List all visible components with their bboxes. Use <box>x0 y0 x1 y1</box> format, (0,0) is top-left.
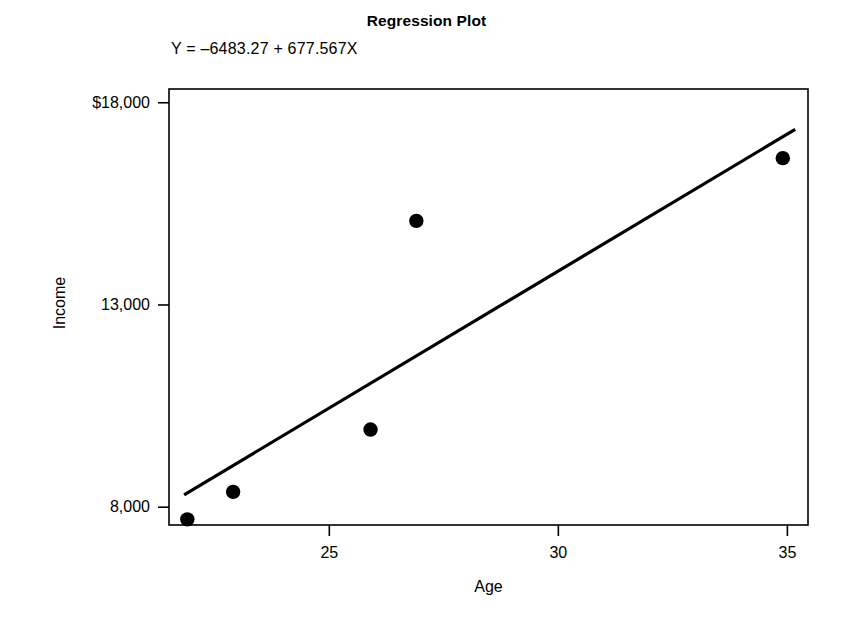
data-point-marker <box>776 151 790 165</box>
data-point-marker <box>180 512 194 526</box>
plot-canvas <box>0 0 853 627</box>
regression-plot-figure: Regression Plot Y = –6483.27 + 677.567X … <box>0 0 853 627</box>
data-point-marker <box>363 422 377 436</box>
data-point-series <box>180 151 790 527</box>
axis-tick-marks <box>158 103 787 536</box>
data-point-marker <box>409 214 423 228</box>
regression-line-path <box>184 129 795 494</box>
data-point-marker <box>226 485 240 499</box>
regression-line <box>184 129 795 494</box>
plot-frame <box>169 89 808 525</box>
plot-frame-border <box>169 89 808 525</box>
